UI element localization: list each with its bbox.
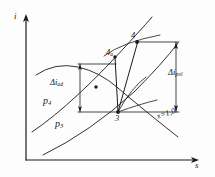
process-adiabatic-3-4a (115, 57, 118, 112)
point-label-3: 3 (115, 114, 119, 123)
axis-x (26, 157, 199, 163)
delta-pol-label: Δipol (168, 68, 183, 78)
axis-x-label: s (195, 161, 199, 170)
point-label-4a: 4a (106, 48, 113, 58)
point-label-4: 4 (131, 31, 135, 40)
figure-canvas: i s 4 4a 3 p4 p3 Δiad Δipol x=1,0 (0, 0, 215, 177)
isobar-label-p4: p4 (43, 96, 51, 107)
delta-ad-bracket (78, 64, 118, 112)
isobar-p3-line (43, 43, 178, 155)
axis-y-label: i (14, 12, 17, 21)
axis-y (23, 14, 29, 160)
point-marker-4a (113, 55, 116, 58)
point-marker-4 (135, 40, 139, 44)
delta-ad-label: Δiad (50, 78, 63, 88)
is-diagram (0, 0, 215, 177)
point-marker-intersection-left (94, 85, 97, 88)
isobar-label-p3: p3 (55, 119, 63, 130)
